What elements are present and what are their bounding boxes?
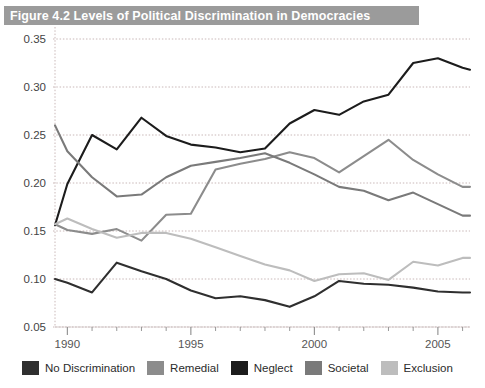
y-tick-label: 0.10 (24, 273, 46, 285)
x-axis-tick-labels: 1990199520002005 (55, 338, 451, 350)
y-tick-label: 0.25 (24, 129, 46, 141)
legend-item[interactable]: Remedial (147, 361, 219, 375)
chart-svg: 0.350.300.250.200.150.100.05 19901995200… (0, 0, 485, 388)
legend-swatch-neglect (231, 361, 248, 375)
x-axis (55, 327, 470, 335)
y-tick-label: 0.20 (24, 177, 46, 189)
series-line-no-discrimination (55, 263, 470, 307)
legend-item[interactable]: Neglect (231, 361, 293, 375)
y-tick-label: 0.30 (24, 81, 46, 93)
y-tick-label: 0.05 (24, 321, 46, 333)
chart-plot-area: 0.350.300.250.200.150.100.05 19901995200… (0, 0, 485, 388)
x-tick-label: 2005 (425, 338, 451, 350)
series-line-neglect (55, 58, 470, 225)
legend-swatch-remedial (147, 361, 164, 375)
y-tick-label: 0.35 (24, 33, 46, 45)
legend-label: No Discrimination (45, 362, 135, 374)
legend-swatch-exclusion (381, 361, 398, 375)
y-tick-label: 0.15 (24, 225, 46, 237)
series-line-societal (55, 125, 470, 215)
legend-item[interactable]: Exclusion (381, 361, 453, 375)
legend-label: Remedial (170, 362, 219, 374)
x-tick-label: 2000 (302, 338, 328, 350)
series-line-remedial (55, 140, 470, 241)
legend-swatch-no-discrimination (22, 361, 39, 375)
figure-container: Figure 4.2 Levels of Political Discrimin… (0, 0, 485, 388)
x-tick-label: 1995 (178, 338, 204, 350)
legend-label: Exclusion (404, 362, 453, 374)
x-tick-label: 1990 (55, 338, 81, 350)
legend-item[interactable]: No Discrimination (22, 361, 135, 375)
y-axis-tick-labels: 0.350.300.250.200.150.100.05 (24, 33, 46, 333)
legend-label: Societal (328, 362, 369, 374)
series-line-exclusion (55, 219, 470, 281)
data-series-lines (55, 58, 470, 307)
legend-swatch-societal (305, 361, 322, 375)
chart-legend: No DiscriminationRemedialNeglectSocietal… (22, 357, 472, 379)
legend-item[interactable]: Societal (305, 361, 369, 375)
legend-label: Neglect (254, 362, 293, 374)
